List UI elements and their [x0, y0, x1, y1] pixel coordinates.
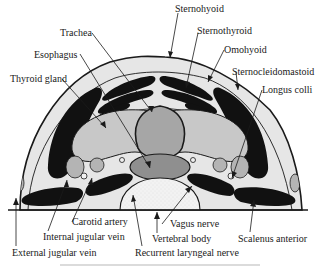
carotid-artery-left — [90, 158, 104, 172]
label-external-jugular-vein: External jugular vein — [12, 247, 96, 258]
neck-cross-section-diagram — [0, 0, 315, 268]
vagus-nerve-left — [81, 173, 87, 179]
label-scalenus-anterior: Scalenus anterior — [238, 233, 307, 244]
recurrent-laryngeal-nerve-left — [120, 158, 125, 163]
label-sternocleidomastoid: Sternocleidomastoid — [232, 66, 314, 77]
label-vertebral-body: Vertebral body — [152, 233, 211, 244]
label-longus-colli: Longus colli — [262, 84, 312, 95]
label-internal-jugular-vein: Internal jugular vein — [43, 231, 125, 242]
carotid-artery-right — [213, 158, 227, 172]
label-sternothyroid: Sternothyroid — [197, 25, 252, 36]
label-recurrent-laryngeal-nerve: Recurrent laryngeal nerve — [135, 247, 239, 258]
label-sternohyoid: Sternohyoid — [175, 3, 224, 14]
recurrent-laryngeal-nerve-right — [191, 158, 196, 163]
label-carotid-artery: Carotid artery — [72, 216, 128, 227]
label-thyroid-gland: Thyroid gland — [10, 73, 67, 84]
esophagus — [130, 154, 190, 180]
cropped-caption-fragment — [60, 262, 260, 268]
label-vagus-nerve: Vagus nerve — [170, 218, 219, 229]
trachea — [136, 106, 185, 158]
label-esophagus: Esophagus — [34, 49, 77, 60]
label-omohyoid: Omohyoid — [224, 44, 267, 55]
label-trachea: Trachea — [60, 27, 92, 38]
